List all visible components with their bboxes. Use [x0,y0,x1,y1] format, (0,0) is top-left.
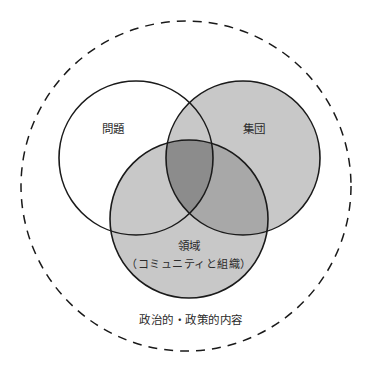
label-circle-domain-sublabel: （コミュニティと組織） [126,258,252,271]
venn-diagram-canvas: 問題 集団 領域 （コミュニティと組織） 政治的・政策的内容 [0,0,385,371]
label-circle-problem: 問題 [102,122,126,136]
venn-diagram-root: 問題 集団 領域 （コミュニティと組織） 政治的・政策的内容 [0,0,385,371]
label-circle-domain: 領域 [178,239,202,253]
label-circle-group: 集団 [243,122,266,136]
label-outer-boundary: 政治的・政策的内容 [139,313,243,327]
